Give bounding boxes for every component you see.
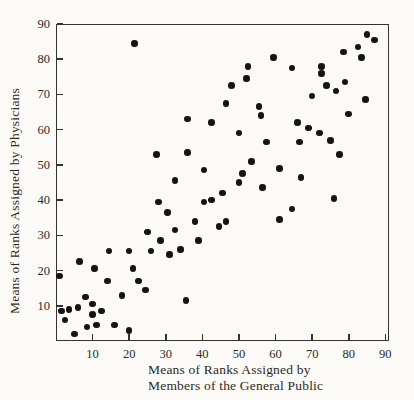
data-point [245,63,252,70]
data-point [166,251,173,258]
data-point [66,306,73,313]
data-point [358,54,365,61]
x-tick-label: 10 [81,347,105,361]
x-tick-label: 70 [300,347,324,361]
y-tick-label: 30 [24,228,50,242]
data-point [318,63,325,70]
data-point [71,331,78,338]
y-tick-label: 80 [24,52,50,66]
plot-area [56,24,389,341]
y-tick-label: 50 [24,158,50,172]
data-point [243,75,250,82]
data-point [223,100,230,107]
data-point [364,31,371,38]
x-tick [385,334,387,340]
y-tick [57,305,63,307]
data-point [155,199,162,206]
data-point [294,119,301,126]
x-tick-label: 20 [117,347,141,361]
x-tick-label: 90 [373,347,397,361]
data-point [104,278,111,285]
data-point [153,151,160,158]
y-tick-label: 70 [24,87,50,101]
x-axis-label: Means of Ranks Assigned by Members of th… [148,362,323,393]
data-point [362,96,369,103]
data-point [130,265,137,272]
data-point [223,218,230,225]
data-point [331,195,338,202]
data-point [298,174,305,181]
y-axis-label: Means of Ranks Assigned by Physicians [7,87,23,313]
data-point [195,237,202,244]
data-point [276,165,283,172]
data-point [305,125,312,132]
data-point [228,82,235,89]
data-point [258,112,265,119]
data-point [219,190,226,197]
data-point [318,70,325,77]
data-point [184,149,191,156]
data-point [248,158,255,165]
data-point [144,229,151,236]
data-point [89,301,96,308]
y-tick [57,199,63,201]
x-tick-label: 50 [227,347,251,361]
data-point [208,119,215,126]
x-tick [165,334,167,340]
data-point [183,297,190,304]
data-point [164,209,171,216]
y-tick [57,235,63,237]
data-point [340,49,347,56]
y-tick [57,129,63,131]
y-tick-label: 60 [24,123,50,137]
data-point [93,322,100,329]
y-tick-label: 40 [24,193,50,207]
x-tick [275,334,277,340]
data-point [236,179,243,186]
y-tick-label: 90 [24,17,50,31]
data-point [239,170,246,177]
x-axis-label-line2: Members of the General Public [148,378,323,394]
data-point [371,37,378,44]
x-tick-label: 80 [337,347,361,361]
y-tick-label: 20 [24,264,50,278]
data-point [58,308,65,315]
y-tick [57,58,63,60]
y-tick [57,94,63,96]
data-point [131,40,138,47]
x-tick-label: 60 [264,347,288,361]
x-tick-label: 40 [190,347,214,361]
x-tick [128,334,130,340]
data-point [327,137,334,144]
x-tick [348,334,350,340]
data-point [157,237,164,244]
y-tick [57,164,63,166]
data-point [75,304,82,311]
data-point [263,139,270,146]
data-point [192,218,199,225]
data-point [323,82,330,89]
data-point [56,273,63,280]
data-point [276,216,283,223]
y-tick-label: 10 [24,299,50,313]
data-point [270,54,277,61]
data-point [82,294,89,301]
data-point [177,246,184,253]
x-tick [311,334,313,340]
data-point [216,223,223,230]
data-point [135,278,142,285]
data-point [345,111,352,118]
x-tick [202,334,204,340]
data-point [296,139,303,146]
data-point [142,287,149,294]
data-point [336,151,343,158]
y-tick [57,270,63,272]
data-point [119,292,126,299]
x-tick [92,334,94,340]
x-tick-label: 30 [154,347,178,361]
x-axis-label-line1: Means of Ranks Assigned by [148,362,323,378]
data-point [91,265,98,272]
data-point [89,311,96,318]
scatter-figure: Means of Ranks Assigned by Physicians Me… [0,0,414,400]
x-tick [238,334,240,340]
